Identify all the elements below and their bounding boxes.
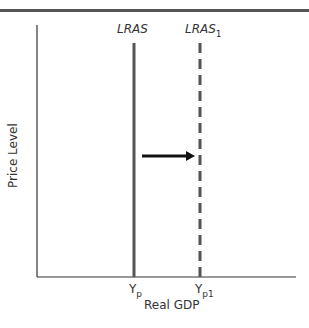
yp-tick-label: Yp [129,282,142,299]
lras1-label: LRAS1 [185,22,222,39]
diagram-canvas [0,0,309,328]
y-axis-label: Price Level [6,123,20,188]
x-axis-label: Real GDP [144,298,199,312]
lras-label: LRAS [117,22,148,36]
shift-arrow [142,151,195,161]
yp1-tick-label: Yp1 [195,282,214,299]
